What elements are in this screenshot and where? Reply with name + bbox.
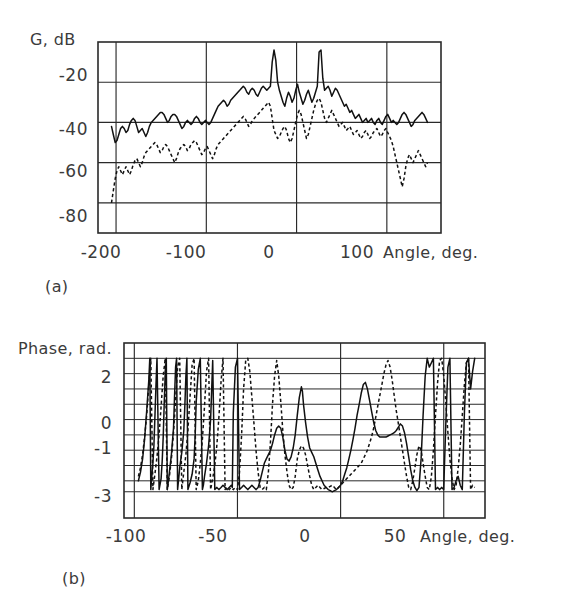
panel-b-phase: Phase, rad. 2 0 -1 -3 -100 -50 0 50 Angl… xyxy=(0,306,571,612)
panel-b-ytick-1: 0 xyxy=(101,413,112,433)
panel-a-xtick-0: -200 xyxy=(81,242,122,262)
panel-b-xtick-3: 50 xyxy=(384,526,407,546)
panel-a-plot-area xyxy=(98,42,441,233)
panel-b-xlabel: Angle, deg. xyxy=(420,527,515,546)
panel-b-xtick-0: -100 xyxy=(106,526,147,546)
panel-b-xtick-1: -50 xyxy=(198,526,227,546)
panel-b-ytick-0: 2 xyxy=(101,367,112,387)
figure-container: G, dB -20 -40 -60 -80 -200 -100 0 100 An… xyxy=(0,0,571,612)
panel-a-xtick-2: 0 xyxy=(263,242,274,262)
panel-a-ytick-2: -60 xyxy=(59,161,88,181)
panel-b-caption: (b) xyxy=(62,569,86,588)
panel-a-xtick-3: 100 xyxy=(340,242,374,262)
panel-a-ytick-0: -20 xyxy=(59,65,88,85)
panel-a-svg: G, dB -20 -40 -60 -80 -200 -100 0 100 An… xyxy=(0,0,571,306)
panel-b-xtick-2: 0 xyxy=(299,526,310,546)
panel-b-ytick-3: -3 xyxy=(94,486,112,506)
panel-b-ytick-2: -1 xyxy=(94,438,112,458)
panel-a-series-0 xyxy=(112,50,428,143)
panel-a-xtick-1: -100 xyxy=(166,242,207,262)
panel-a-ytick-1: -40 xyxy=(59,119,88,139)
panel-b-svg: Phase, rad. 2 0 -1 -3 -100 -50 0 50 Angl… xyxy=(0,306,571,612)
panel-a-caption: (a) xyxy=(45,277,69,296)
panel-b-plot-area xyxy=(124,343,485,518)
panel-b-ylabel: Phase, rad. xyxy=(18,339,112,358)
panel-b-labels: Phase, rad. 2 0 -1 -3 -100 -50 0 50 Angl… xyxy=(18,339,515,588)
panel-a-ytick-3: -80 xyxy=(59,206,88,226)
panel-a-xlabel: Angle, deg. xyxy=(383,243,478,262)
panel-a-ylabel: G, dB xyxy=(30,30,76,49)
panel-a-gain: G, dB -20 -40 -60 -80 -200 -100 0 100 An… xyxy=(0,0,571,306)
